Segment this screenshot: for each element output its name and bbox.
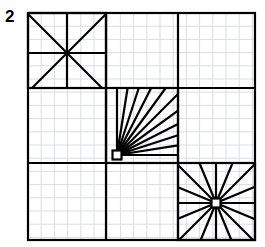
quarter-fan-figure-middle-center [106, 88, 178, 163]
asterisk-ray [67, 53, 102, 88]
starburst-hub-square [212, 199, 221, 208]
puzzle-diagram [0, 0, 265, 247]
figure-shapes-layer [28, 13, 255, 240]
starburst-figure-bottom-right [178, 163, 255, 240]
figure-canvas: 2 [0, 0, 265, 247]
asterisk-ray [28, 14, 67, 53]
asterisk-ray [32, 53, 67, 88]
fan-hub-square [113, 151, 122, 160]
asterisk-ray [67, 14, 106, 53]
diagram-container [0, 0, 265, 247]
starburst-ray [216, 164, 255, 203]
fan-ray [117, 111, 178, 155]
